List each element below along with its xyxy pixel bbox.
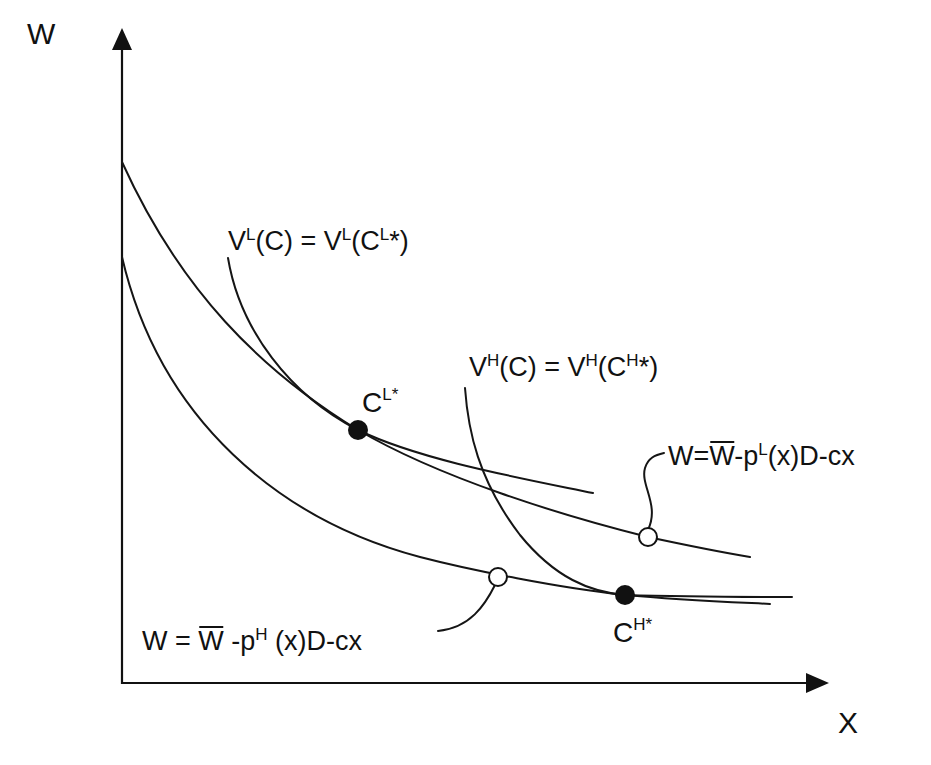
budget-line-high-risk [122, 257, 770, 604]
leader-line-low-risk [644, 453, 664, 530]
cl-star-label: CL* [362, 385, 399, 418]
budget-high-risk-label: W = W -pH (x)D-cx [142, 625, 363, 656]
budget-low-risk-marker [639, 528, 657, 546]
y-axis-arrow-icon [112, 28, 132, 50]
indifference-budget-diagram: W X VL(C) = VL(CL*) VH(C) = VH(CH*) CL* … [0, 0, 931, 765]
ch-star-label: CH* [613, 615, 653, 648]
x-axis-arrow-icon [806, 673, 829, 693]
leader-line-high-risk [438, 585, 495, 631]
cl-star-point [348, 420, 368, 440]
vl-equation-label: VL(C) = VL(CL*) [228, 225, 409, 256]
y-axis-label: W [27, 17, 56, 50]
x-axis-label: X [838, 706, 858, 739]
budget-low-risk-label: W=W-pL(x)D-cx [668, 440, 855, 471]
indifference-curve-vh [465, 388, 792, 597]
wbar-symbol: W [709, 441, 735, 471]
wbar-symbol: W [198, 626, 224, 656]
vh-equation-label: VH(C) = VH(CH*) [469, 351, 658, 382]
budget-high-risk-marker [489, 568, 507, 586]
ch-star-point [615, 585, 635, 605]
